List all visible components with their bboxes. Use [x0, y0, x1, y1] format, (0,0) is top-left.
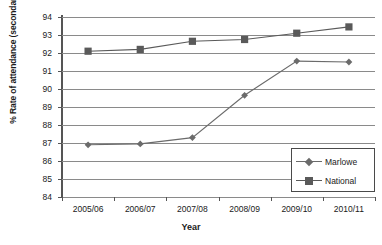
x-tick-mark [114, 197, 115, 201]
data-point-marlowe-0[interactable] [85, 141, 92, 148]
x-axis-tick-label: 2010/11 [322, 204, 376, 214]
x-tick-mark [219, 197, 220, 201]
legend-label-marlowe: Marlowe [322, 157, 357, 167]
data-point-marlowe-5[interactable] [346, 59, 353, 66]
y-axis-tick-label: 87 [36, 139, 52, 148]
y-axis-tick-label: 93 [36, 31, 52, 40]
legend-marker-diamond-icon [296, 156, 322, 168]
y-axis-tick-label: 91 [36, 67, 52, 76]
data-point-national-3[interactable] [241, 36, 248, 43]
series-line-national [88, 27, 349, 51]
y-axis-tick-label: 86 [36, 157, 52, 166]
data-point-national-0[interactable] [84, 48, 91, 55]
x-axis-tick-label: 2009/10 [270, 204, 324, 214]
data-point-national-2[interactable] [189, 38, 196, 45]
x-axis-tick-label: 2006/07 [113, 204, 167, 214]
y-axis-tick-label: 92 [36, 49, 52, 58]
x-axis-tick-label: 2008/09 [218, 204, 272, 214]
x-tick-mark [323, 197, 324, 201]
y-axis-tick-label: 90 [36, 85, 52, 94]
chart-legend: Marlowe National [291, 148, 375, 192]
legend-label-national: National [322, 176, 356, 186]
series-line-marlowe [88, 61, 349, 145]
data-point-national-5[interactable] [345, 23, 352, 30]
x-axis-tick-label: 2007/08 [165, 204, 219, 214]
legend-item-national[interactable]: National [292, 171, 374, 190]
y-axis-tick-label: 89 [36, 103, 52, 112]
y-axis-tick-label: 84 [36, 193, 52, 202]
y-axis-title: % Rate of attendance (secondary) [8, 0, 18, 152]
data-point-marlowe-1[interactable] [137, 141, 144, 148]
x-tick-mark [375, 197, 376, 201]
x-tick-mark [271, 197, 272, 201]
data-point-national-1[interactable] [137, 46, 144, 53]
legend-item-marlowe[interactable]: Marlowe [292, 152, 374, 171]
x-axis-tick-label: 2005/06 [61, 204, 115, 214]
y-axis-tick-label: 88 [36, 121, 52, 130]
x-axis-title: Year [0, 222, 382, 232]
data-point-marlowe-4[interactable] [293, 58, 300, 65]
data-point-national-4[interactable] [293, 30, 300, 37]
line-chart: % Rate of attendance (secondary) 8485868… [0, 0, 382, 245]
y-axis-tick-label: 85 [36, 175, 52, 184]
legend-marker-square-icon [296, 175, 322, 187]
x-tick-mark [62, 197, 63, 201]
y-axis-tick-label: 94 [36, 13, 52, 22]
x-tick-mark [166, 197, 167, 201]
